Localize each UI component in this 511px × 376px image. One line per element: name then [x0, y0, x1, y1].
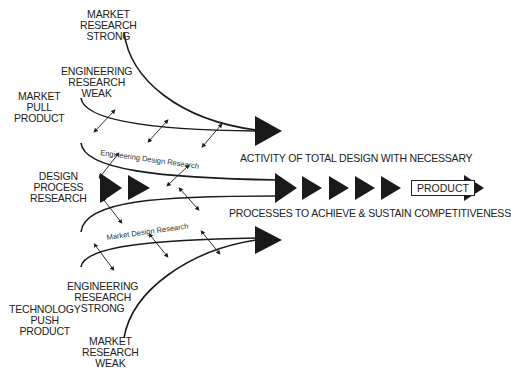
label-market-pull-product: MARKET PULL PRODUCT: [14, 91, 65, 124]
label-line: PRODUCT: [14, 113, 65, 124]
engineering-research-strong-upper-curve: [81, 238, 256, 267]
main-arrow-5: [381, 176, 401, 200]
double-arrow: [202, 232, 219, 253]
double-arrow: [149, 121, 167, 141]
product-box: PRODUCT: [411, 180, 475, 196]
design-triangle-1: [100, 173, 122, 203]
main-arrow-1: [275, 173, 297, 203]
main-arrow-4: [355, 176, 375, 200]
bottom-arrowhead: [255, 226, 282, 254]
label-engineering-research-weak: ENGINEERING RESEARCH WEAK: [61, 66, 132, 99]
label-line: STRONG: [80, 31, 137, 42]
double-arrow: [203, 125, 221, 146]
main-arrow-2: [302, 176, 322, 200]
label-design-process-research: DESIGN PROCESS RESEARCH: [30, 171, 87, 204]
label-market-research-weak: MARKET RESEARCH WEAK: [82, 336, 139, 369]
label-line: WEAK: [61, 88, 132, 99]
caption-line-2: PROCESSES TO ACHIEVE & SUSTAIN COMPETITI…: [229, 207, 511, 219]
market-research-strong-curve: [124, 32, 256, 130]
design-triangle-2: [128, 175, 150, 200]
label-line: RESEARCH: [30, 193, 87, 204]
label-line: WEAK: [82, 358, 139, 369]
market-research-weak-curve: [124, 240, 256, 338]
caption-line-1: ACTIVITY OF TOTAL DESIGN WITH NECESSARY: [240, 152, 472, 164]
double-arrow: [180, 189, 198, 209]
double-arrow: [103, 199, 121, 222]
label-market-research-strong: MARKET RESEARCH STRONG: [80, 9, 137, 42]
label-technology-push-product: TECHNOLOGY PUSH PRODUCT: [9, 304, 81, 337]
label-line: PRODUCT: [9, 326, 81, 337]
main-arrow-3: [329, 176, 349, 200]
double-arrow: [150, 235, 167, 256]
top-arrowhead: [255, 116, 282, 146]
engineering-research-weak-curve: [81, 98, 256, 131]
